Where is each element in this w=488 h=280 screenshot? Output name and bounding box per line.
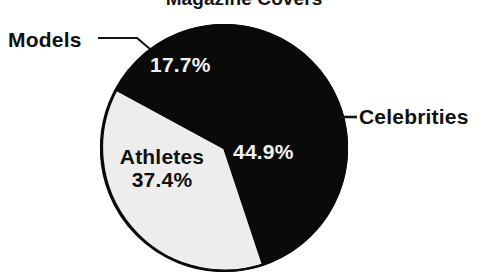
pie-label-models: Models	[8, 28, 82, 52]
pie-label-group-athletes: Athletes 37.4%	[103, 146, 221, 191]
chart-canvas: Magazine Covers Models Celebrities 17.7%…	[0, 0, 488, 280]
pie-label-celebrities: Celebrities	[359, 105, 469, 129]
pie-value-models: 17.7%	[150, 53, 211, 77]
chart-title: Magazine Covers	[0, 0, 488, 10]
pie-value-athletes: 37.4%	[103, 168, 221, 192]
pie-label-athletes: Athletes	[103, 146, 221, 168]
pie-value-celebrities: 44.9%	[233, 140, 294, 164]
